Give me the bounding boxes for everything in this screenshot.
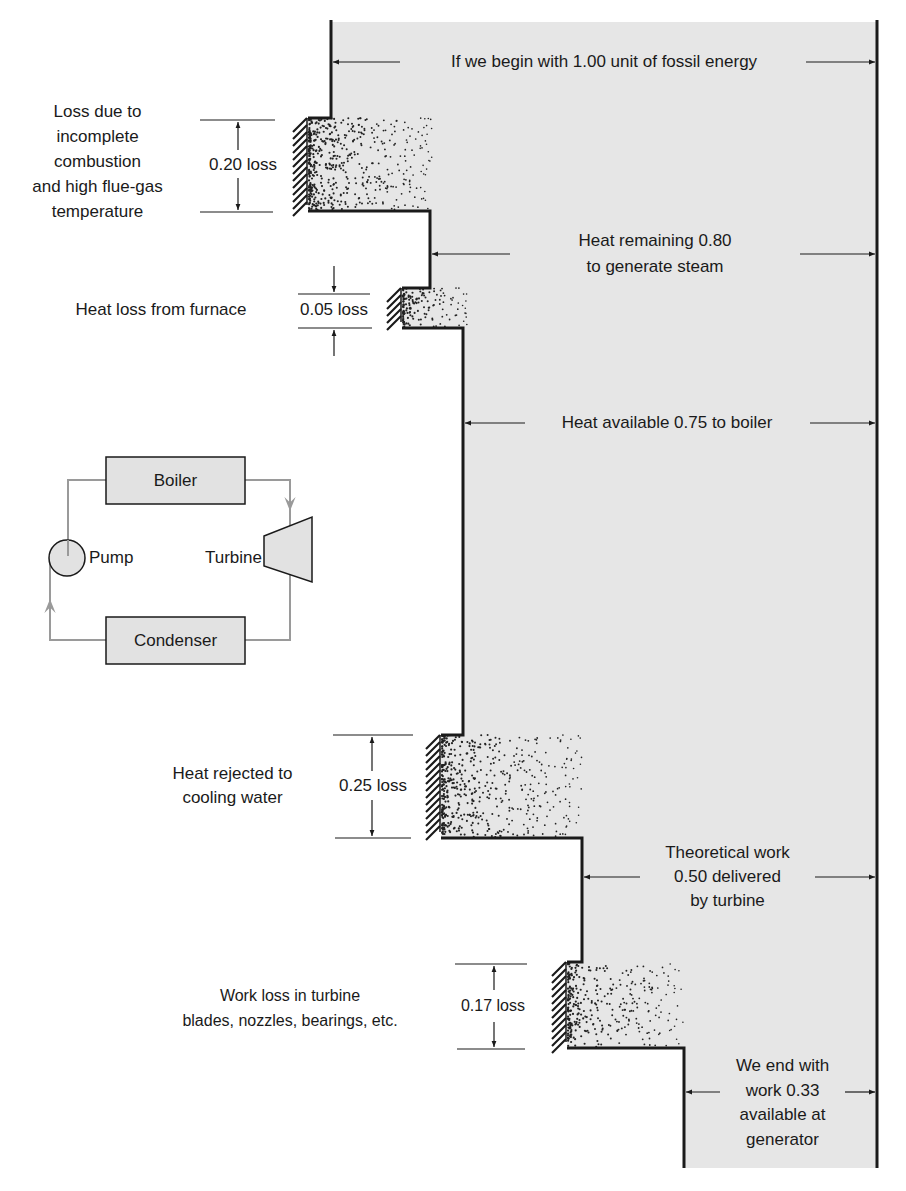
loss-desc-cooling-1: Heat rejected to bbox=[140, 763, 325, 785]
loss-desc-combustion-5: temperature bbox=[10, 201, 185, 223]
loss-value-cooling: 0.25 loss bbox=[328, 775, 418, 797]
heat-remaining-label-1: Heat remaining 0.80 bbox=[520, 230, 790, 252]
loss-desc-turbine-2: blades, nozzles, bearings, etc. bbox=[165, 1010, 415, 1032]
loss-desc-combustion-2: incomplete bbox=[10, 126, 185, 148]
boiler-label: Boiler bbox=[106, 470, 245, 492]
pump-label: Pump bbox=[89, 547, 149, 569]
theoretical-work-label-3: by turbine bbox=[640, 890, 815, 912]
loss-desc-furnace: Heat loss from furnace bbox=[50, 299, 272, 321]
loss-desc-cooling-2: cooling water bbox=[140, 787, 325, 809]
loss-value-furnace: 0.05 loss bbox=[288, 299, 380, 321]
heat-available-label: Heat available 0.75 to boiler bbox=[527, 412, 807, 434]
end-work-label-3: available at bbox=[715, 1104, 850, 1126]
end-work-label-4: generator bbox=[715, 1129, 850, 1151]
loss-value-combustion: 0.20 loss bbox=[200, 154, 286, 176]
condenser-label: Condenser bbox=[106, 630, 245, 652]
loss-desc-combustion-1: Loss due to bbox=[10, 101, 185, 123]
loss-desc-combustion-4: and high flue-gas bbox=[10, 176, 185, 198]
input-energy-label: If we begin with 1.00 unit of fossil ene… bbox=[408, 51, 800, 73]
loss-desc-turbine-1: Work loss in turbine bbox=[165, 985, 415, 1007]
theoretical-work-label-1: Theoretical work bbox=[640, 842, 815, 864]
end-work-label-2: work 0.33 bbox=[715, 1080, 850, 1102]
loss-value-turbine: 0.17 loss bbox=[448, 995, 538, 1017]
loss-desc-combustion-3: combustion bbox=[10, 151, 185, 173]
end-work-label-1: We end with bbox=[715, 1055, 850, 1077]
heat-remaining-label-2: to generate steam bbox=[520, 256, 790, 278]
turbine-shape bbox=[264, 517, 312, 582]
turbine-label: Turbine bbox=[186, 547, 262, 569]
theoretical-work-label-2: 0.50 delivered bbox=[640, 866, 815, 888]
